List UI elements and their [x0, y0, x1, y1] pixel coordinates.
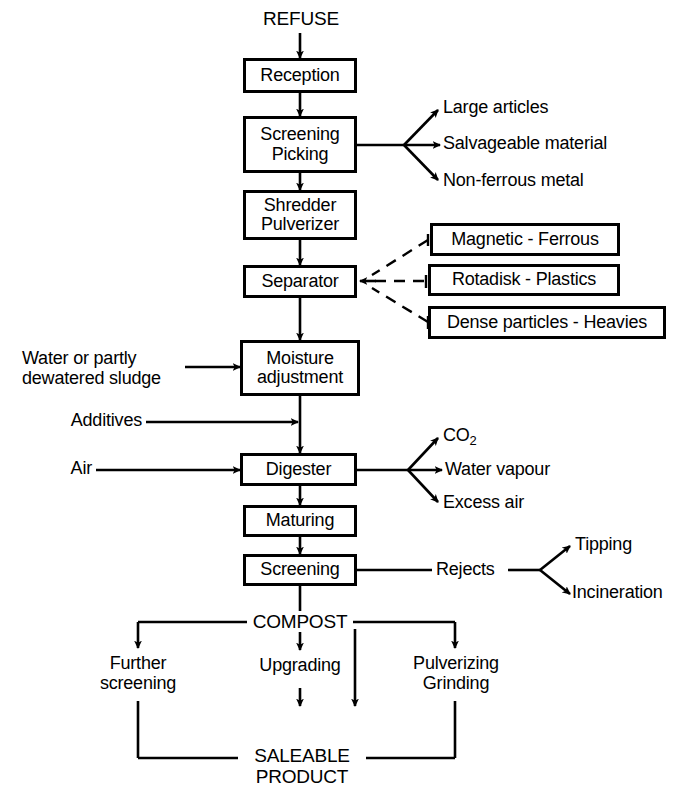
process-flow-diagram: REFUSE Reception Screening Picking Shred…	[0, 0, 687, 792]
separator-input-label-magnetic-ferrous: Magnetic - Ferrous	[451, 230, 598, 249]
branch-label-further-screening: Further screening	[78, 653, 198, 693]
branch-label-further-screening-line-2: screening	[78, 673, 198, 693]
process-box-reception-line-1: Reception	[260, 66, 339, 85]
branch-label-pulverizing-grinding-line-2: Grinding	[396, 673, 516, 693]
input-label-water-or-sludge: Water or partly dewatered sludge	[22, 348, 192, 388]
process-box-screening[interactable]: Screening	[243, 554, 357, 586]
wire-group-digester-outputs	[357, 438, 442, 502]
branch-label-pulverizing-grinding-line-1: Pulverizing	[396, 653, 516, 673]
label-rejects: Rejects	[436, 559, 495, 579]
process-box-screening-picking-line-2: Picking	[272, 145, 329, 164]
branch-label-upgrading: Upgrading	[243, 655, 357, 675]
output-label-non-ferrous-metal: Non-ferrous metal	[443, 170, 584, 190]
separator-input-box-magnetic-ferrous[interactable]: Magnetic - Ferrous	[430, 223, 620, 256]
separator-input-box-rotadisk-plastics[interactable]: Rotadisk - Plastics	[428, 264, 620, 296]
process-box-screening-picking-line-1: Screening	[260, 125, 339, 144]
branch-label-pulverizing-grinding: Pulverizing Grinding	[396, 653, 516, 693]
process-box-shredder-pulverizer-line-1: Shredder	[264, 196, 336, 215]
label-compost: COMPOST	[247, 611, 353, 632]
separator-input-label-dense-particles-heavies: Dense particles - Heavies	[447, 313, 647, 332]
input-label-additives: Additives	[0, 410, 142, 430]
branch-label-further-screening-line-1: Further	[78, 653, 198, 673]
process-box-shredder-pulverizer-line-2: Pulverizer	[261, 215, 339, 234]
process-box-moisture-adjustment[interactable]: Moisture adjustment	[240, 340, 360, 396]
output-label-saleable-product: SALEABLE PRODUCT	[238, 745, 366, 788]
process-box-digester[interactable]: Digester	[240, 453, 357, 486]
wire-group-screening-picking-outputs	[357, 110, 440, 180]
separator-input-box-dense-particles-heavies[interactable]: Dense particles - Heavies	[428, 306, 666, 339]
wire-group-separator-inputs	[372, 240, 428, 322]
output-label-excess-air: Excess air	[443, 492, 524, 512]
output-label-incineration: Incineration	[572, 582, 663, 602]
process-box-moisture-adjustment-line-2: adjustment	[257, 368, 343, 387]
output-label-salvageable-material: Salvageable material	[443, 133, 607, 153]
input-label-air: Air	[0, 458, 92, 478]
process-box-separator-line-1: Separator	[261, 272, 338, 291]
process-box-separator[interactable]: Separator	[243, 265, 357, 298]
process-box-moisture-adjustment-line-1: Moisture	[266, 349, 333, 368]
separator-input-label-rotadisk-plastics: Rotadisk - Plastics	[452, 270, 596, 289]
output-label-tipping: Tipping	[575, 534, 632, 554]
process-box-screening-line-1: Screening	[260, 560, 339, 579]
process-box-reception[interactable]: Reception	[243, 58, 357, 93]
process-box-screening-picking[interactable]: Screening Picking	[243, 116, 357, 173]
output-label-saleable-product-line-2: PRODUCT	[238, 766, 366, 787]
output-label-carbon-dioxide-subscript: 2	[470, 433, 477, 448]
input-label-water-or-sludge-line-1: Water or partly	[22, 348, 192, 368]
process-box-shredder-pulverizer[interactable]: Shredder Pulverizer	[243, 190, 357, 240]
process-box-maturing[interactable]: Maturing	[243, 505, 357, 537]
input-label-water-or-sludge-line-2: dewatered sludge	[22, 368, 192, 388]
output-label-saleable-product-line-1: SALEABLE	[238, 745, 366, 766]
process-box-maturing-line-1: Maturing	[266, 511, 334, 530]
process-box-digester-line-1: Digester	[266, 460, 331, 479]
output-label-water-vapour: Water vapour	[445, 459, 550, 479]
output-label-carbon-dioxide: CO2	[443, 425, 477, 448]
input-label-refuse: REFUSE	[246, 8, 356, 29]
output-label-carbon-dioxide-text: CO	[443, 425, 470, 445]
output-label-large-articles: Large articles	[443, 97, 548, 117]
